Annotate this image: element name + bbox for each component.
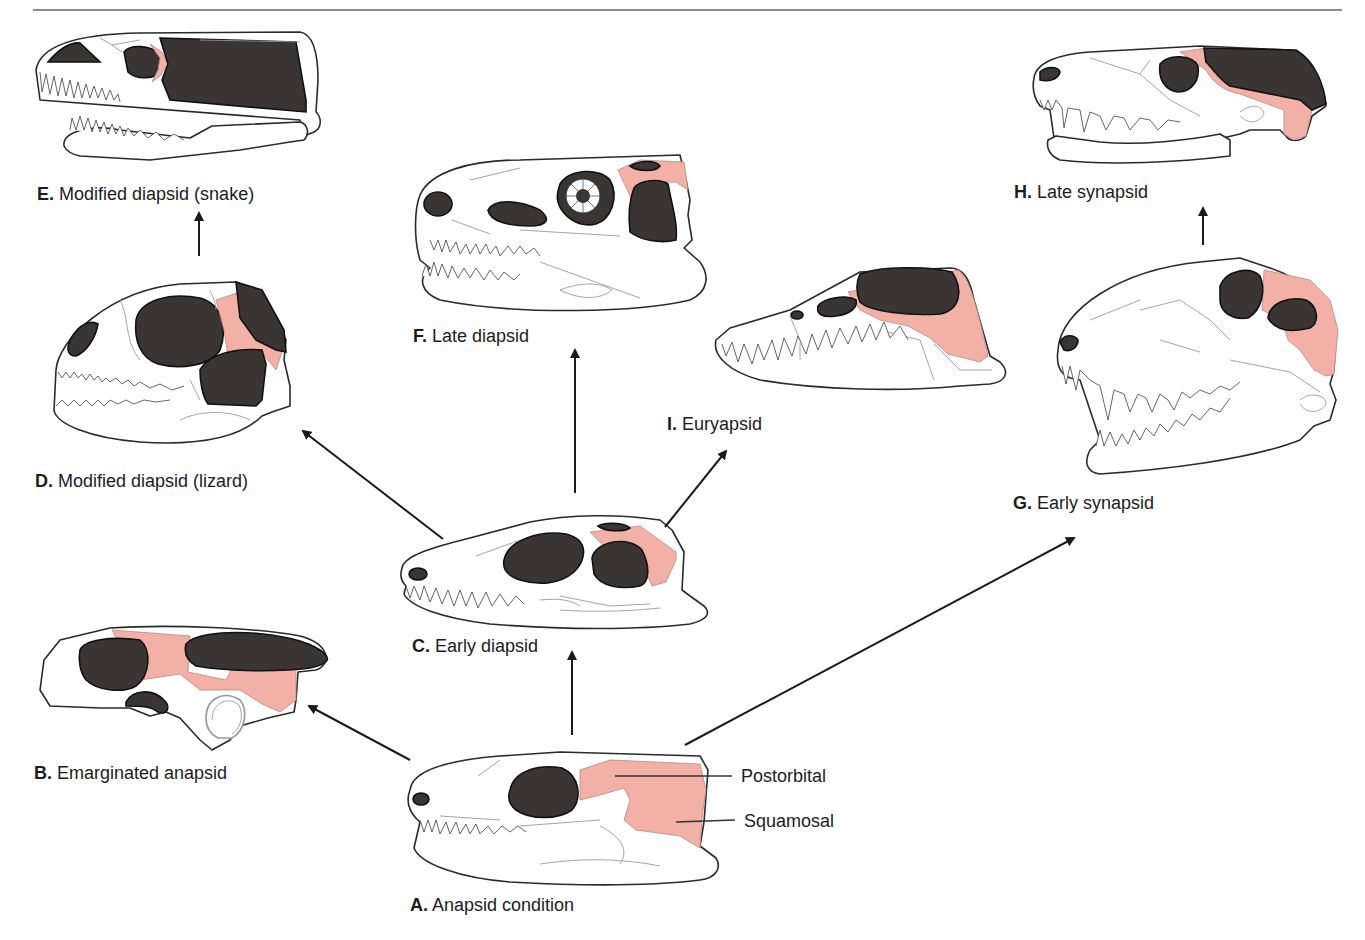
skull-g-early-synapsid [1058, 258, 1339, 474]
naris-icon [409, 568, 427, 580]
arrow-c-to-d [303, 431, 443, 539]
label-a: A. Anapsid condition [410, 895, 574, 915]
callout-postorbital: Postorbital [741, 766, 826, 786]
lower-temporal-fenestra-icon [629, 181, 676, 242]
label-c: C. Early diapsid [412, 636, 538, 656]
label-e-letter: E. [37, 184, 54, 204]
label-d-letter: D. [35, 471, 53, 491]
diagram-canvas [0, 0, 1365, 940]
upper-temporal-fenestra-icon [857, 268, 959, 315]
skull-b-emarginated-anapsid [40, 626, 327, 750]
orbit-icon [136, 296, 224, 367]
label-f-name: Late diapsid [432, 326, 529, 346]
label-h-name: Late synapsid [1037, 182, 1148, 202]
arrow-a-to-g [685, 538, 1074, 745]
skull-i-euryapsid [715, 268, 1005, 390]
label-i-name: Euryapsid [682, 414, 762, 434]
label-b: B. Emarginated anapsid [34, 763, 227, 783]
naris-icon [413, 793, 429, 805]
label-d-name: Modified diapsid (lizard) [58, 471, 248, 491]
label-a-name: Anapsid condition [432, 895, 574, 915]
label-h-letter: H. [1014, 182, 1032, 202]
label-f: F. Late diapsid [413, 326, 529, 346]
label-e-name: Modified diapsid (snake) [59, 184, 254, 204]
naris-icon [791, 311, 803, 319]
label-g: G. Early synapsid [1013, 493, 1154, 513]
label-c-letter: C. [412, 636, 430, 656]
lower-temporal-fenestra-icon [592, 542, 648, 588]
label-g-letter: G. [1013, 493, 1032, 513]
label-h: H. Late synapsid [1014, 182, 1148, 202]
label-b-letter: B. [34, 763, 52, 783]
skull-f-late-diapsid [416, 155, 706, 311]
callout-squamosal: Squamosal [744, 811, 834, 831]
label-g-name: Early synapsid [1037, 493, 1154, 513]
label-d: D. Modified diapsid (lizard) [35, 471, 248, 491]
skull-c-early-diapsid [401, 516, 708, 629]
orbit-icon [1220, 271, 1263, 319]
skull-e-snake [36, 32, 320, 160]
arrow-c-to-i [665, 451, 726, 527]
naris-icon [424, 192, 452, 216]
orbit-icon [1160, 57, 1199, 92]
skull-h-late-synapsid [1033, 46, 1326, 163]
orbit-icon [509, 767, 578, 818]
label-i: I. Euryapsid [667, 414, 762, 434]
label-c-name: Early diapsid [435, 636, 538, 656]
skull-d-lizard [54, 282, 290, 443]
arrow-a-to-b [309, 706, 410, 760]
label-e: E. Modified diapsid (snake) [37, 184, 254, 204]
skull-evolution-diagram: E. Modified diapsid (snake) F. Late diap… [0, 0, 1365, 940]
orbit-icon [79, 638, 148, 690]
skull-a-anapsid [408, 752, 735, 885]
label-a-letter: A. [410, 895, 428, 915]
label-b-name: Emarginated anapsid [57, 763, 227, 783]
temporal-fenestra-icon [160, 38, 306, 112]
label-i-letter: I. [667, 414, 677, 434]
label-f-letter: F. [413, 326, 427, 346]
